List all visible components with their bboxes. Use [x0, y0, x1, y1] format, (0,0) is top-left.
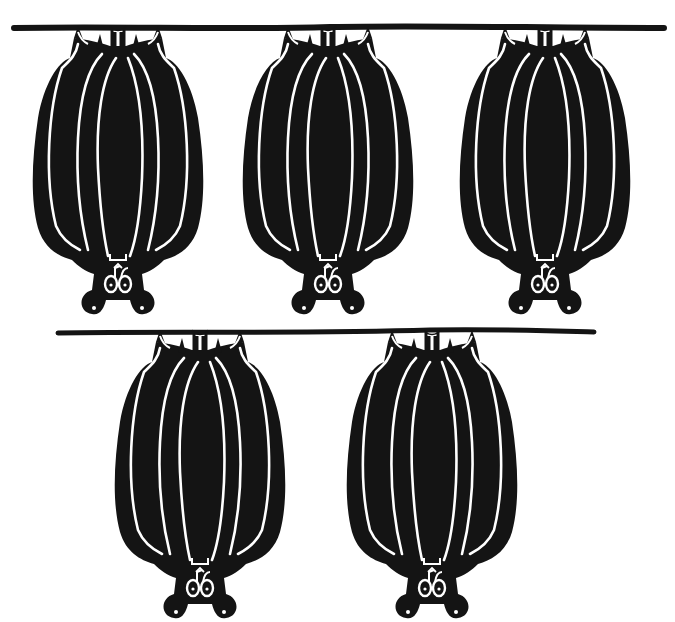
bat-5: [347, 330, 518, 618]
bat-2: [243, 26, 414, 314]
bat-1: [33, 26, 204, 314]
bat-illustration: [0, 0, 675, 622]
bat-3: [460, 26, 631, 314]
bottom-branch: [58, 330, 594, 333]
bat-4: [115, 330, 286, 618]
illustration-canvas: [0, 0, 675, 622]
